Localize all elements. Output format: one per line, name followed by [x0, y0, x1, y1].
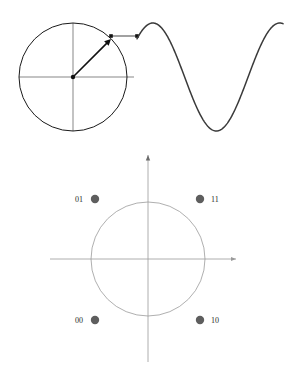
constellation-point-marker — [196, 316, 204, 324]
constellation-vertical-axis-arrow-icon — [146, 155, 150, 161]
constellation-point-marker — [196, 195, 204, 203]
figure-root: 01110010 — [0, 0, 285, 371]
constellation-point-11: 11 — [196, 195, 219, 204]
constellation-horizontal-axis-arrow-icon — [231, 257, 236, 261]
constellation-points-group: 01110010 — [75, 195, 219, 325]
phasor-center-dot — [71, 75, 75, 79]
sine-waveform — [137, 23, 283, 131]
technical-figure: 01110010 — [0, 0, 285, 371]
constellation-point-10: 10 — [196, 316, 219, 325]
constellation-point-marker — [91, 316, 99, 324]
constellation-point-01: 01 — [75, 195, 99, 204]
constellation-diagram-group: 01110010 — [50, 155, 236, 362]
constellation-point-00: 00 — [75, 316, 99, 325]
constellation-point-label: 00 — [75, 316, 83, 325]
constellation-point-marker — [91, 195, 99, 203]
constellation-point-label: 10 — [211, 316, 219, 325]
phasor-diagram-group — [19, 23, 283, 131]
constellation-point-label: 11 — [211, 195, 219, 204]
constellation-point-label: 01 — [75, 195, 83, 204]
phasor-radius-vector — [73, 41, 109, 77]
phasor-connector-start-marker — [109, 34, 113, 38]
